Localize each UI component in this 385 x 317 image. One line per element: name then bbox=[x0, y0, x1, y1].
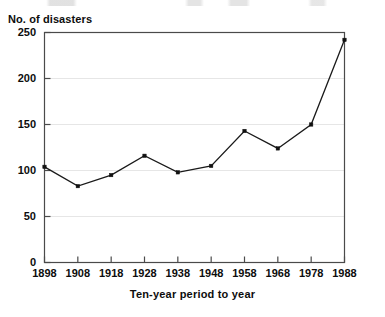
y-axis-ticks bbox=[45, 33, 51, 263]
data-point bbox=[243, 129, 246, 132]
data-point bbox=[343, 38, 346, 41]
data-point bbox=[209, 164, 212, 167]
x-axis-ticks bbox=[45, 257, 345, 263]
data-point bbox=[143, 154, 146, 157]
axis-box bbox=[45, 33, 345, 263]
data-markers bbox=[43, 38, 346, 188]
data-point bbox=[176, 171, 179, 174]
data-line bbox=[45, 40, 345, 186]
y-tick-label: 150 bbox=[0, 119, 36, 130]
data-point bbox=[76, 184, 79, 187]
y-tick-label: 100 bbox=[0, 165, 36, 176]
series-line bbox=[45, 40, 345, 186]
plot-frame bbox=[45, 33, 345, 263]
y-tick-label: 0 bbox=[0, 257, 36, 268]
data-point bbox=[43, 165, 46, 168]
chart-figure: No. of disasters 050100150200250 1898190… bbox=[0, 0, 385, 317]
data-point bbox=[109, 173, 112, 176]
data-point bbox=[276, 147, 279, 150]
data-point bbox=[309, 123, 312, 126]
y-tick-label: 50 bbox=[0, 211, 36, 222]
x-tick-label: 1988 bbox=[323, 268, 367, 279]
y-tick-label: 200 bbox=[0, 73, 36, 84]
gridlines bbox=[45, 79, 345, 217]
y-tick-label: 250 bbox=[0, 27, 36, 38]
x-axis-title: Ten-year period to year bbox=[0, 288, 385, 300]
